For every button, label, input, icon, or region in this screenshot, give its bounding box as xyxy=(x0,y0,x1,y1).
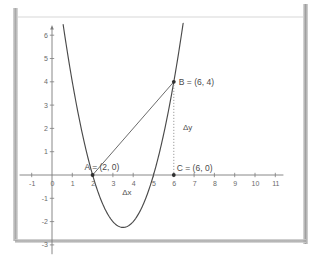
y-axis-arrow-icon xyxy=(50,25,54,30)
x-tick-label: 9 xyxy=(231,180,240,187)
y-tick-label: 2 xyxy=(38,125,48,132)
x-tick-label: 0 xyxy=(48,180,57,187)
delta-y-label: Δy xyxy=(183,124,192,132)
x-tick-label: 7 xyxy=(190,180,199,187)
x-tick-label: 6 xyxy=(170,180,179,187)
y-tick-label: 4 xyxy=(38,78,48,85)
y-tick-label: 1 xyxy=(38,148,48,155)
y-tick-label: -1 xyxy=(38,195,48,202)
y-tick-label: 6 xyxy=(38,32,48,39)
y-tick-label: -2 xyxy=(38,218,48,225)
x-tick-label: 2 xyxy=(89,180,98,187)
x-tick-label: 3 xyxy=(109,180,118,187)
y-tick-label: 5 xyxy=(38,55,48,62)
point-label-c: C = (6, 0) xyxy=(177,164,213,173)
point-marker-b xyxy=(172,80,176,84)
x-tick-label: 4 xyxy=(129,180,138,187)
axes-group xyxy=(20,25,284,254)
cartesian-plot xyxy=(0,0,321,262)
x-tick-label: 11 xyxy=(271,180,280,187)
graph-figure: A = (2, 0) B = (6, 4) C = (6, 0) Δy Δx -… xyxy=(0,0,321,262)
point-label-b: B = (6, 4) xyxy=(179,78,214,87)
point-marker-a xyxy=(91,173,95,177)
y-tick-label: -3 xyxy=(38,241,48,248)
delta-x-label: Δx xyxy=(122,189,131,197)
x-tick-label: -1 xyxy=(28,180,37,187)
point-marker-c xyxy=(172,173,176,177)
x-tick-label: 10 xyxy=(251,180,260,187)
x-tick-label: 5 xyxy=(150,180,159,187)
point-label-a: A = (2, 0) xyxy=(85,163,120,172)
y-tick-label: 3 xyxy=(38,102,48,109)
x-tick-label: 8 xyxy=(210,180,219,187)
x-tick-label: 1 xyxy=(68,180,77,187)
